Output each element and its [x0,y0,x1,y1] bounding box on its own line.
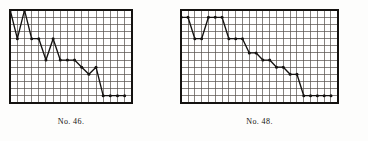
data-point [30,37,33,40]
data-point [193,37,196,40]
data-point [9,9,12,12]
data-point [73,59,76,62]
data-point [309,94,312,97]
data-point [102,94,105,97]
chart-no-46 [9,9,133,104]
figure-caption-no-48: No. 48. [180,117,339,126]
data-point [241,37,244,40]
data-point [295,73,298,76]
data-point [316,94,319,97]
data-point [187,16,190,19]
data-point [227,37,230,40]
data-point [44,59,47,62]
chart-no-48 [180,9,339,104]
data-point [23,9,26,12]
data-point [66,59,69,62]
data-point [52,37,55,40]
figure-no-46: No. 46. [9,9,133,104]
data-point [214,16,217,19]
figure-caption-no-46: No. 46. [9,117,133,126]
data-point [302,94,305,97]
data-point [180,16,183,19]
data-point [275,66,278,69]
data-point [16,37,19,40]
data-point [80,66,83,69]
data-point [87,73,90,76]
data-point [323,94,326,97]
data-point [221,16,224,19]
data-point [248,51,251,54]
data-point [116,94,119,97]
data-point [109,94,112,97]
data-point [37,37,40,40]
data-point [200,37,203,40]
figure-page: No. 46. No. 48. [0,0,368,141]
data-point [95,66,98,69]
data-point [123,94,126,97]
data-point [255,51,258,54]
data-point [207,16,210,19]
data-point [261,59,264,62]
data-point [329,94,332,97]
data-point [59,59,62,62]
data-point [289,73,292,76]
data-point [268,59,271,62]
data-point [234,37,237,40]
data-point [282,66,285,69]
figure-no-48: No. 48. [180,9,339,104]
